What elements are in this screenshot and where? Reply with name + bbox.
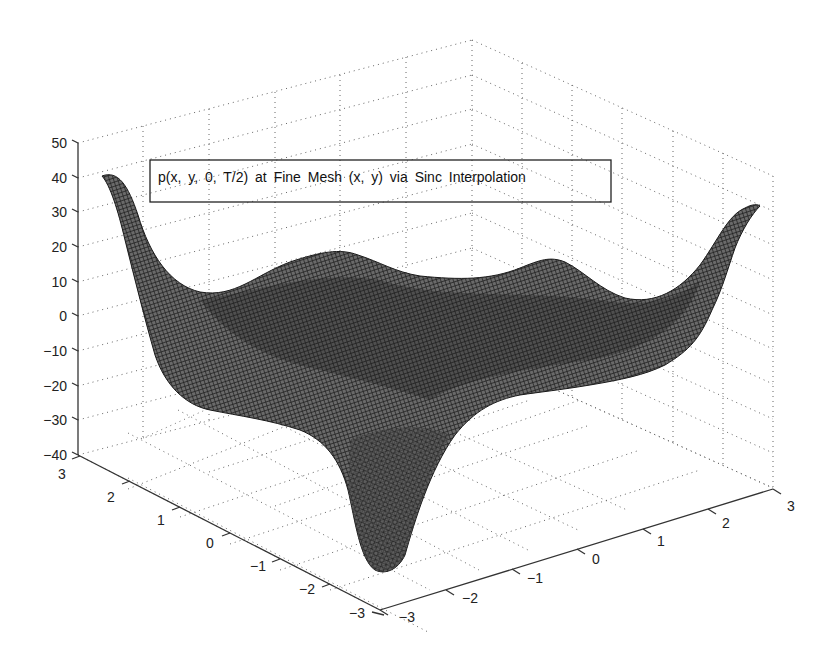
svg-text:−1: −1 xyxy=(527,570,543,586)
y-tick-labels: 3 2 1 0 −1 −2 −3 xyxy=(58,466,365,621)
svg-text:0: 0 xyxy=(59,308,67,324)
svg-text:1: 1 xyxy=(157,512,165,528)
plot-title: p(x, y, 0, T/2) at Fine Mesh (x, y) via … xyxy=(158,169,526,185)
svg-text:3: 3 xyxy=(58,466,66,482)
surface-plot: 50 40 30 20 10 0 −10 −20 −30 −40 3 2 1 0… xyxy=(0,0,829,659)
svg-text:−3: −3 xyxy=(349,605,365,621)
svg-text:50: 50 xyxy=(51,135,67,151)
svg-text:−10: −10 xyxy=(43,343,67,359)
svg-text:−2: −2 xyxy=(462,590,478,606)
surface-trough-shading xyxy=(348,427,450,572)
mesh-surface xyxy=(102,175,760,572)
svg-text:−30: −30 xyxy=(43,412,67,428)
x-tick-labels: −3 −2 −1 0 1 2 3 xyxy=(399,498,795,625)
y-axis-line xyxy=(78,455,380,610)
z-tick-labels: 50 40 30 20 10 0 −10 −20 −30 −40 xyxy=(43,135,67,463)
y-ticks xyxy=(72,456,384,615)
svg-text:2: 2 xyxy=(107,489,115,505)
title-box: p(x, y, 0, T/2) at Fine Mesh (x, y) via … xyxy=(150,160,611,202)
svg-text:1: 1 xyxy=(657,533,665,549)
svg-text:30: 30 xyxy=(51,204,67,220)
svg-text:10: 10 xyxy=(51,274,67,290)
svg-text:−20: −20 xyxy=(43,378,67,394)
z-ticks xyxy=(72,140,78,455)
svg-text:0: 0 xyxy=(206,535,214,551)
x-ticks xyxy=(380,489,781,615)
svg-text:20: 20 xyxy=(51,239,67,255)
svg-text:2: 2 xyxy=(722,515,730,531)
svg-text:−1: −1 xyxy=(250,558,266,574)
svg-text:−40: −40 xyxy=(43,447,67,463)
svg-text:−3: −3 xyxy=(399,609,415,625)
svg-text:−2: −2 xyxy=(299,581,315,597)
x-axis-line xyxy=(380,489,773,610)
svg-text:0: 0 xyxy=(592,551,600,567)
svg-text:40: 40 xyxy=(51,170,67,186)
svg-text:3: 3 xyxy=(787,498,795,514)
